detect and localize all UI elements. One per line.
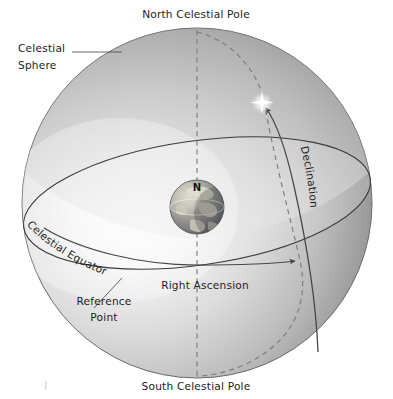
- registration-tick: [45, 381, 46, 390]
- south-celestial-pole-label: South Celestial Pole: [142, 380, 251, 392]
- celestial-sphere-label-line2: Sphere: [18, 59, 57, 71]
- north-celestial-pole-label: North Celestial Pole: [142, 8, 250, 20]
- celestial-sphere-diagram: North Celestial Pole South Celestial Pol…: [0, 0, 393, 399]
- celestial-sphere-figure: North Celestial Pole South Celestial Pol…: [0, 0, 393, 399]
- right-ascension-label: Right Ascension: [161, 279, 249, 291]
- reference-point-label-line2: Point: [90, 311, 117, 323]
- reference-point-label-line1: Reference: [76, 295, 131, 307]
- celestial-sphere-label-line1: Celestial: [18, 42, 65, 54]
- earth-north-label: N: [193, 182, 201, 193]
